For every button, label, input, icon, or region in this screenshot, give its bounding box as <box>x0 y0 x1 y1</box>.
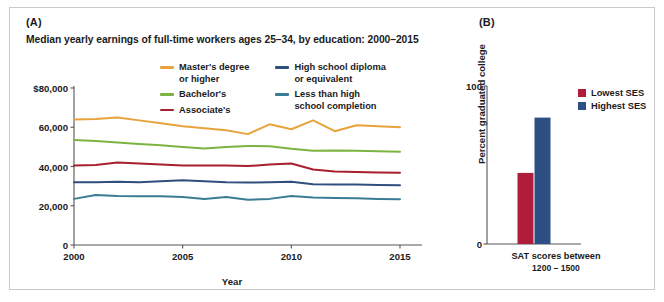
panel-a-x-tick-label: 2010 <box>281 251 302 262</box>
panel-a-x-axis-labels: 2000200520102015 <box>20 251 430 269</box>
panel-a-y-axis-labels: 020,00040,00060,000$80,000 <box>20 78 430 258</box>
panel-a-x-tick-label: 2015 <box>389 251 410 262</box>
bar-highest-ses <box>535 118 551 244</box>
panel-a-title: Median yearly earnings of full-time work… <box>26 34 419 45</box>
legend-swatch-icon <box>160 66 174 69</box>
figure-container: (A) (B) Median yearly earnings of full-t… <box>0 0 664 302</box>
panel-b-label: (B) <box>479 16 495 28</box>
panel-a-x-tick-label: 2005 <box>172 251 193 262</box>
panel-b-x-label-line1: SAT scores between <box>471 250 641 262</box>
panel-a-y-tick-label: 60,000 <box>39 122 68 133</box>
panel-b-y-tick-label: 100 <box>466 81 482 92</box>
panel-b-x-label-line2: 1200 – 1500 <box>471 262 641 274</box>
legend-swatch-icon <box>578 89 586 97</box>
legend-label: Highest SES <box>591 101 646 111</box>
panel-a-y-tick-label: 40,000 <box>39 161 68 172</box>
legend-label: Lowest SES <box>591 88 644 98</box>
panel-a-y-tick-label: 0 <box>63 240 68 251</box>
panel-a-y-tick-label: $80,000 <box>33 83 68 94</box>
panel-a-x-tick-label: 2000 <box>63 251 84 262</box>
panel-a-plot: 020,00040,00060,000$80,000 2000200520102… <box>20 78 430 258</box>
legend-entry: Lowest SES <box>578 88 646 98</box>
panel-b-y-tick-label: 0 <box>477 239 482 250</box>
bar-lowest-ses <box>518 173 534 244</box>
panel-b-x-axis-label: SAT scores between 1200 – 1500 <box>471 250 641 274</box>
legend-entry: Highest SES <box>578 101 646 111</box>
panel-a-x-axis-title: Year <box>222 276 242 287</box>
panel-a-label: (A) <box>26 16 42 28</box>
legend-swatch-icon <box>578 102 586 110</box>
panel-a-y-tick-label: 20,000 <box>39 200 68 211</box>
legend-swatch-icon <box>275 66 289 69</box>
panel-b-legend: Lowest SESHighest SES <box>578 88 646 111</box>
